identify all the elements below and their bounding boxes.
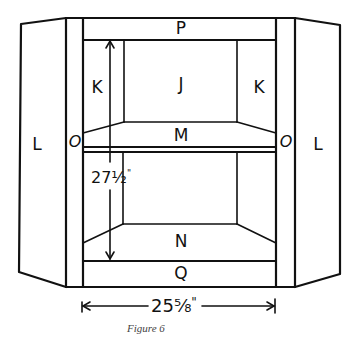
- width-dimension-label: 25⅝": [151, 295, 197, 316]
- label-k-left: K: [91, 77, 103, 97]
- label-o-right: O: [280, 132, 293, 151]
- label-layer: P J K K M N Q O O L L 27½" 25⅝" Figure 6: [0, 0, 360, 347]
- label-n: N: [175, 231, 188, 251]
- label-l-left: L: [32, 134, 42, 154]
- label-q: Q: [174, 263, 187, 283]
- label-o-left: O: [69, 132, 82, 151]
- label-j: J: [177, 74, 183, 94]
- height-dimension-label: 27½": [91, 168, 131, 187]
- figure-caption: Figure 6: [126, 322, 165, 334]
- label-l-right: L: [313, 134, 323, 154]
- label-m: M: [174, 125, 189, 145]
- label-k-right: K: [253, 77, 265, 97]
- label-p: P: [176, 18, 186, 38]
